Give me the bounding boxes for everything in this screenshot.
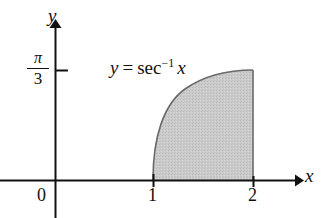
equation-relation: = xyxy=(118,57,137,78)
origin-label: 0 xyxy=(37,186,46,204)
x-tick-label-2: 2 xyxy=(248,186,257,204)
y-axis-label: y xyxy=(48,6,56,25)
shaded-area-region xyxy=(153,70,253,180)
x-axis-arrowhead xyxy=(295,175,304,187)
y-tick-label-pi-over-3: π 3 xyxy=(26,50,50,89)
equation-exponent: −1 xyxy=(161,56,174,70)
x-tick-label-1: 1 xyxy=(148,186,157,204)
fraction-numerator: π xyxy=(26,50,50,67)
equation-argument: x xyxy=(174,57,185,78)
x-axis-label: x xyxy=(305,166,313,185)
curve-equation-label: y=sec−1x xyxy=(110,56,186,79)
equation-function-name: sec xyxy=(137,57,161,78)
sec-inverse-area-figure: y x 0 1 2 π 3 y=sec−1x xyxy=(0,0,323,218)
fraction-denominator: 3 xyxy=(26,70,50,89)
plot-canvas xyxy=(0,0,323,218)
